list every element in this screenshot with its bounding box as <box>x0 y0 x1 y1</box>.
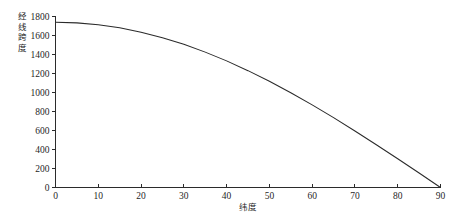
y-tick-label: 200 <box>35 164 50 174</box>
y-axis-title-char: 线 <box>18 22 27 32</box>
x-tick-label: 30 <box>179 191 189 201</box>
y-axis-title-char: 经 <box>18 11 27 21</box>
y-tick-label: 1400 <box>31 50 50 60</box>
x-tick-label: 40 <box>222 191 232 201</box>
x-tick-label: 0 <box>53 191 58 201</box>
chart-background <box>0 0 462 217</box>
y-tick-label: 0 <box>45 183 50 193</box>
y-tick-label: 1200 <box>31 69 50 79</box>
y-tick-label: 1600 <box>31 31 50 41</box>
x-tick-label: 50 <box>265 191 275 201</box>
x-tick-label: 60 <box>307 191 317 201</box>
x-tick-label: 70 <box>350 191 360 201</box>
x-tick-label: 10 <box>94 191 104 201</box>
meridian-span-line-chart: 020040060080010001200140016001800 010203… <box>0 0 462 217</box>
y-tick-label: 400 <box>35 145 50 155</box>
y-tick-label: 600 <box>35 126 50 136</box>
y-axis-title: 经线跨度 <box>18 11 27 53</box>
x-tick-label: 80 <box>393 191 403 201</box>
x-tick-label: 90 <box>436 191 446 201</box>
y-axis-title-char: 度 <box>18 43 27 53</box>
chart-container: 020040060080010001200140016001800 010203… <box>0 0 462 217</box>
x-tick-label: 20 <box>136 191 146 201</box>
y-axis-title-char: 跨 <box>18 32 27 42</box>
x-axis-title: 纬度 <box>239 202 257 212</box>
y-tick-label: 1800 <box>31 12 50 22</box>
y-tick-label: 800 <box>35 107 50 117</box>
y-tick-label: 1000 <box>31 88 50 98</box>
